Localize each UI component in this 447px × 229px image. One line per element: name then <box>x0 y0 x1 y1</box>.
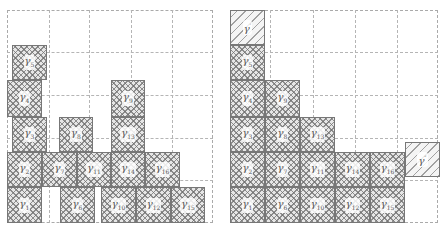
block-gamma11: γ11 <box>300 152 335 187</box>
block-label: γ14 <box>345 162 361 177</box>
block-label: γ4 <box>242 91 254 106</box>
block-label: γ5 <box>24 55 36 70</box>
block-label: γ4 <box>19 91 31 106</box>
block-gamma4: γ4 <box>230 80 265 117</box>
block-gamma8: γ8 <box>59 117 93 152</box>
block-label: γ8 <box>277 127 289 142</box>
block-gamma15: γ15 <box>370 187 405 223</box>
block-label: γ12 <box>146 198 162 213</box>
block-label: γ15 <box>380 198 396 213</box>
grid-line-vertical <box>49 10 50 223</box>
block-gamma15: γ15 <box>171 187 205 223</box>
block-gamma7: γ7 <box>42 152 77 187</box>
block-gamma1: γ1 <box>7 187 42 223</box>
block-label: γ9 <box>122 91 134 106</box>
block-gamma14: γ14 <box>111 152 145 187</box>
block-label: γ7 <box>54 162 66 177</box>
block-label: γ11 <box>86 162 102 177</box>
block-gamma3: γ3 <box>230 117 265 152</box>
block-label: γ″ <box>417 152 427 166</box>
block-gamma7: γ7 <box>265 152 300 187</box>
block-gamma13: γ13 <box>111 117 145 152</box>
block-label: γ14 <box>120 162 136 177</box>
block-gamma16: γ16 <box>370 152 405 187</box>
block-gamma10: γ10 <box>300 187 335 223</box>
block-gamma11: γ11 <box>77 152 111 187</box>
block-gamma5: γ5 <box>230 45 265 80</box>
block-gamma13: γ13 <box>300 117 335 152</box>
block-label: γ1 <box>242 198 254 213</box>
block-gamma1: γ1 <box>230 187 265 223</box>
block-label: γ3 <box>24 127 36 142</box>
block-gamma3: γ3 <box>12 117 47 152</box>
block-gamma6: γ6 <box>265 187 300 223</box>
block-label: γ13 <box>310 127 326 142</box>
block-label: γ6 <box>277 198 289 213</box>
block-gamma-double-prime: γ″ <box>405 142 440 177</box>
block-gamma-prime: γ′ <box>230 10 265 45</box>
block-label: γ9 <box>277 91 289 106</box>
block-gamma10: γ10 <box>101 187 136 223</box>
block-label: γ2 <box>19 162 31 177</box>
block-gamma8: γ8 <box>265 117 300 152</box>
block-gamma6: γ6 <box>60 187 95 223</box>
block-gamma5: γ5 <box>12 45 47 80</box>
block-label: γ10 <box>310 198 326 213</box>
block-label: γ6 <box>72 198 84 213</box>
block-gamma12: γ12 <box>136 187 171 223</box>
block-label: γ1 <box>19 198 31 213</box>
block-gamma9: γ9 <box>111 80 145 117</box>
block-label: γ8 <box>70 127 82 142</box>
block-gamma4: γ4 <box>7 80 42 117</box>
block-gamma16: γ16 <box>145 152 180 187</box>
block-label: γ′ <box>243 20 252 34</box>
block-label: γ7 <box>277 162 289 177</box>
block-label: γ3 <box>242 127 254 142</box>
block-label: γ5 <box>242 55 254 70</box>
block-label: γ13 <box>120 127 136 142</box>
block-label: γ12 <box>345 198 361 213</box>
block-label: γ11 <box>310 162 326 177</box>
block-label: γ10 <box>111 198 127 213</box>
block-label: γ16 <box>155 162 171 177</box>
block-label: γ15 <box>180 198 196 213</box>
block-gamma2: γ2 <box>7 152 42 187</box>
block-gamma2: γ2 <box>230 152 265 187</box>
block-label: γ16 <box>380 162 396 177</box>
block-gamma9: γ9 <box>265 80 300 117</box>
block-label: γ2 <box>242 162 254 177</box>
block-gamma12: γ12 <box>335 187 370 223</box>
block-gamma14: γ14 <box>335 152 370 187</box>
